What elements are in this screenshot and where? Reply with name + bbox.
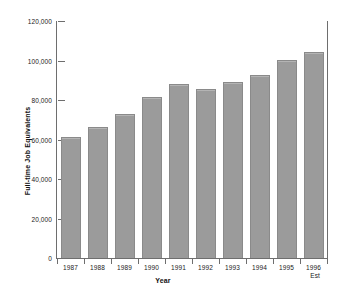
bar-chart: Full-time Job Equivalents 020,00040,0006… (0, 0, 342, 302)
bar (61, 137, 81, 258)
x-tick-label-year: 1990 (144, 264, 159, 272)
x-tick-label-year: 1995 (279, 264, 294, 272)
bar (250, 75, 270, 258)
bar (88, 127, 108, 258)
bar (304, 52, 324, 258)
x-tick-label-year: 1987 (63, 264, 78, 272)
bar (196, 89, 216, 258)
x-tick-mark (219, 258, 220, 264)
bar (277, 60, 297, 258)
x-tick-label-year: 1989 (117, 264, 132, 272)
x-axis-title: Year (155, 277, 171, 284)
bar (169, 84, 189, 258)
bar (223, 82, 243, 258)
bars-group (0, 0, 342, 302)
x-tick-mark (57, 258, 58, 264)
x-tick-mark (138, 258, 139, 264)
x-tick-label: 1993 (225, 264, 240, 272)
x-tick-mark (84, 258, 85, 264)
x-tick-label: 1994 (252, 264, 267, 272)
x-tick-mark (165, 258, 166, 264)
x-tick-label-year: 1993 (225, 264, 240, 272)
x-tick-mark (192, 258, 193, 264)
x-tick-label-year: 1996 (306, 264, 321, 272)
x-tick-label: 1992 (198, 264, 213, 272)
x-tick-label: 1995 (279, 264, 294, 272)
x-tick-mark (327, 258, 328, 264)
x-tick-label: 1987 (63, 264, 78, 272)
x-tick-label: 1991 (171, 264, 186, 272)
x-axis-title-container: Year (0, 277, 342, 284)
bar (115, 114, 135, 258)
x-tick-mark (111, 258, 112, 264)
x-tick-label: 1989 (117, 264, 132, 272)
x-tick-mark (273, 258, 274, 264)
x-tick-label: 1990 (144, 264, 159, 272)
x-tick-label-year: 1992 (198, 264, 213, 272)
x-tick-label-year: 1994 (252, 264, 267, 272)
x-tick-label-year: 1988 (90, 264, 105, 272)
x-tick-mark (300, 258, 301, 264)
x-tick-mark (246, 258, 247, 264)
x-tick-label: 1988 (90, 264, 105, 272)
x-tick-label-year: 1991 (171, 264, 186, 272)
bar (142, 97, 162, 258)
